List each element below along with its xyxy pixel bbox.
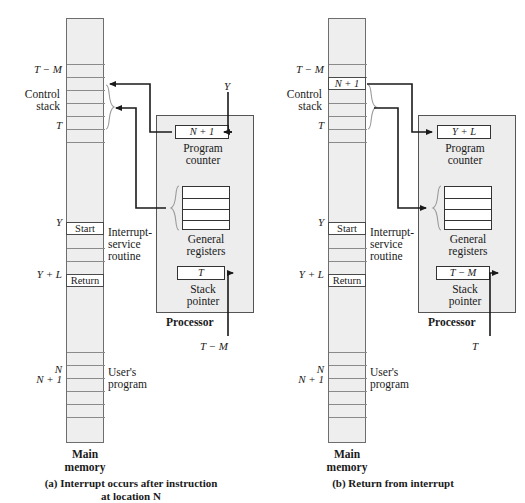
stack-brace — [366, 84, 378, 130]
caption-line1-b: (b) Return from interrupt — [262, 477, 524, 490]
address-label-t-minus-m: T − M — [296, 63, 324, 75]
isr-label-line1: Interrupt- — [108, 226, 152, 239]
memory-footer-line2-a: memory — [25, 461, 145, 474]
program-counter-register-b: Y + L — [437, 125, 491, 139]
general-registers-box-b — [444, 186, 492, 230]
memory-divider — [67, 129, 105, 130]
address-label-y-plus-l: Y + L — [299, 268, 324, 280]
incoming-sp-label-b: T — [472, 340, 478, 352]
memory-divider — [67, 64, 105, 65]
address-label-y-plus-l: Y + L — [37, 268, 62, 280]
stack-brace — [104, 84, 116, 130]
incoming-pc-label-a: Y — [224, 80, 230, 92]
memory-divider — [67, 90, 105, 91]
memory-divider — [67, 404, 105, 405]
general-registers-box-a — [182, 186, 230, 230]
stack-cell-n-plus-1: N + 1 — [328, 77, 366, 90]
memory-footer-line1-b: Main — [287, 448, 407, 461]
address-label-n-plus-1: N + 1 — [298, 373, 324, 385]
address-label-y: Y — [318, 216, 324, 228]
user-program-label-line2: program — [108, 378, 147, 391]
stack-pointer-label-line2: pointer — [428, 295, 502, 308]
memory-divider — [67, 261, 105, 262]
processor-title-b: Processor — [428, 316, 476, 328]
caption-line2-a: at location N — [0, 490, 262, 503]
memory-divider — [67, 116, 105, 117]
memory-divider — [329, 116, 367, 117]
user-program-label-line1: User's — [108, 366, 136, 379]
control-stack-label-line1: Control — [0, 88, 60, 101]
memory-divider — [329, 404, 367, 405]
stack-pointer-label-line1: Stack — [428, 283, 502, 296]
processor-title-a: Processor — [166, 316, 214, 328]
panel-interrupt-occurs: Start Return T − M T Y Y + L N N + 1 Con… — [0, 0, 262, 503]
memory-footer-line2-b: memory — [287, 461, 407, 474]
memory-divider — [329, 417, 367, 418]
isr-label-line3: routine — [370, 250, 403, 263]
control-stack-label-line1: Control — [262, 88, 322, 101]
memory-divider — [329, 365, 367, 366]
address-label-t: T — [318, 119, 324, 131]
stack-pointer-register-b: T − M — [436, 266, 490, 280]
control-stack-label-line2: stack — [262, 100, 322, 113]
memory-divider — [329, 142, 367, 143]
address-label-t: T — [56, 119, 62, 131]
general-registers-brace — [169, 185, 181, 231]
memory-divider — [329, 261, 367, 262]
memory-divider — [67, 378, 105, 379]
memory-footer-line1-a: Main — [25, 448, 145, 461]
memory-divider — [329, 248, 367, 249]
control-stack-label-line2: stack — [0, 100, 60, 113]
memory-cell-start: Start — [66, 222, 104, 235]
memory-divider — [329, 391, 367, 392]
main-memory-column-a: Start Return — [66, 18, 104, 443]
memory-cell-start: Start — [328, 222, 366, 235]
stack-pointer-label-line2: pointer — [166, 295, 240, 308]
program-counter-label-line2: counter — [428, 154, 502, 167]
address-label-t-minus-m: T − M — [34, 63, 62, 75]
memory-divider — [329, 103, 367, 104]
program-counter-label-line1: Program — [428, 142, 502, 155]
panel-return-from-interrupt: N + 1 Start Return T − M T Y Y + L N N +… — [262, 0, 524, 503]
memory-divider — [67, 365, 105, 366]
stack-pointer-label-line1: Stack — [166, 283, 240, 296]
memory-divider — [67, 142, 105, 143]
user-program-label-line1: User's — [370, 366, 398, 379]
memory-divider — [329, 64, 367, 65]
memory-divider — [67, 103, 105, 104]
memory-divider — [329, 378, 367, 379]
address-label-y: Y — [56, 216, 62, 228]
general-registers-label-line1: General — [169, 233, 243, 246]
memory-divider — [67, 417, 105, 418]
memory-divider — [67, 391, 105, 392]
general-registers-label-line2: registers — [169, 245, 243, 258]
memory-divider — [329, 129, 367, 130]
user-program-label-line2: program — [370, 378, 409, 391]
isr-label-line1: Interrupt- — [370, 226, 414, 239]
program-counter-label-line2: counter — [166, 154, 240, 167]
memory-divider — [67, 352, 105, 353]
general-registers-label-line2: registers — [431, 245, 505, 258]
memory-divider — [329, 352, 367, 353]
main-memory-column-b: N + 1 Start Return — [328, 18, 366, 443]
stack-pointer-register-a: T — [177, 266, 225, 280]
memory-divider — [67, 248, 105, 249]
caption-line1-a: (a) Interrupt occurs after instruction — [0, 477, 262, 490]
isr-label-line3: routine — [108, 250, 141, 263]
isr-label-line2: service — [108, 238, 141, 251]
memory-cell-return: Return — [66, 274, 104, 287]
address-label-n-plus-1: N + 1 — [36, 373, 62, 385]
memory-divider — [67, 77, 105, 78]
incoming-sp-label-a: T − M — [200, 340, 228, 352]
program-counter-label-line1: Program — [166, 142, 240, 155]
general-registers-label-line1: General — [431, 233, 505, 246]
isr-label-line2: service — [370, 238, 403, 251]
program-counter-register-a: N + 1 — [175, 125, 229, 139]
general-registers-brace — [431, 185, 443, 231]
memory-cell-return: Return — [328, 274, 366, 287]
